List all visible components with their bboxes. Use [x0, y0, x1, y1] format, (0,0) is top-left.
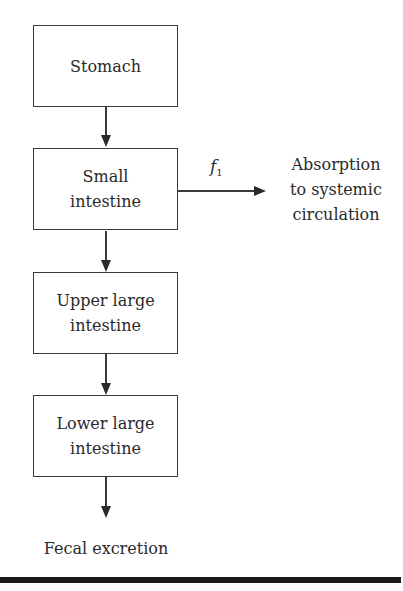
small-intestine-label-line2: intestine: [70, 189, 141, 214]
upper-large-label-line2: intestine: [56, 313, 154, 338]
lower-large-intestine-box: Lower large intestine: [33, 395, 178, 477]
arrow-stomach-to-small-intestine: [105, 107, 107, 137]
f1-parameter-label: f1: [210, 156, 223, 178]
stomach-label: Stomach: [70, 54, 141, 79]
arrowhead-down-icon: [101, 260, 111, 272]
arrow-lower-to-fecal: [105, 477, 107, 507]
bottom-rule: [0, 577, 401, 583]
lower-large-label-line1: Lower large: [56, 411, 154, 436]
fecal-excretion-label: Fecal excretion: [20, 536, 192, 561]
arrow-upper-to-lower-large: [105, 354, 107, 384]
small-intestine-box: Small intestine: [33, 148, 178, 230]
arrow-absorption: [178, 190, 254, 192]
arrowhead-down-icon: [101, 135, 111, 147]
arrowhead-down-icon: [101, 383, 111, 395]
arrowhead-right-icon: [254, 186, 266, 196]
upper-large-label-line1: Upper large: [56, 288, 154, 313]
absorption-label: Absorption to systemic circulation: [272, 152, 400, 227]
upper-large-intestine-box: Upper large intestine: [33, 272, 178, 354]
arrowhead-down-icon: [101, 506, 111, 518]
lower-large-label-line2: intestine: [56, 436, 154, 461]
small-intestine-label-line1: Small: [70, 164, 141, 189]
stomach-box: Stomach: [33, 25, 178, 107]
arrow-small-to-upper-large: [105, 231, 107, 261]
